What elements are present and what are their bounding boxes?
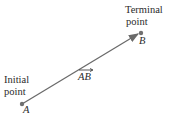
point-a-label: A bbox=[23, 104, 29, 116]
vector-ab-label: AB bbox=[78, 71, 91, 83]
point-b-label: B bbox=[139, 35, 145, 47]
initial-label-line2: point bbox=[4, 86, 29, 98]
initial-point-label: Initial point bbox=[4, 74, 29, 98]
initial-label-line1: Initial bbox=[4, 74, 29, 86]
terminal-label-line1: Terminal bbox=[125, 4, 163, 16]
terminal-label-line2: point bbox=[125, 16, 163, 28]
vector-ab-arrow bbox=[22, 34, 138, 104]
terminal-point-label: Terminal point bbox=[125, 4, 163, 28]
